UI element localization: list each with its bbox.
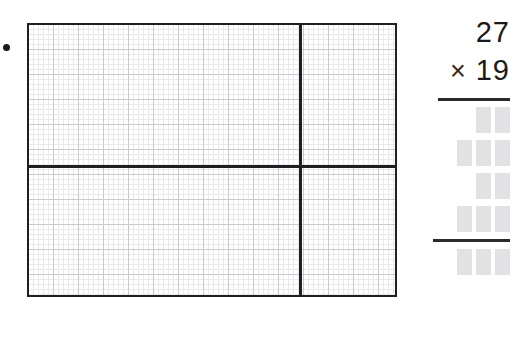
answer-blank-box[interactable] <box>476 173 491 199</box>
partial-product-row-1[interactable] <box>420 107 520 133</box>
multiplicand-value: 27 <box>476 18 510 47</box>
answer-blank-box[interactable] <box>476 249 491 275</box>
grid-horizontal-partition-line <box>29 165 395 168</box>
answer-blank-box[interactable] <box>457 140 472 166</box>
grid-vertical-partition-line <box>299 25 302 295</box>
multiplication-sign-icon: × <box>450 58 466 85</box>
problem-divider-rule-top <box>438 98 510 101</box>
multiplicand-row: 27 <box>420 18 520 56</box>
answer-blank-box[interactable] <box>457 206 472 232</box>
area-model-grid[interactable] <box>27 23 397 297</box>
answer-blank-box[interactable] <box>495 206 510 232</box>
answer-blank-box[interactable] <box>476 107 491 133</box>
partial-product-row-2[interactable] <box>420 140 520 166</box>
answer-blank-box[interactable] <box>495 173 510 199</box>
answer-blank-box[interactable] <box>457 249 472 275</box>
answer-blank-box[interactable] <box>495 107 510 133</box>
bullet-marker <box>3 44 10 51</box>
answer-blank-box[interactable] <box>476 140 491 166</box>
problem-divider-rule-bottom <box>433 239 510 242</box>
answer-blank-box[interactable] <box>495 249 510 275</box>
total-row[interactable] <box>420 249 520 275</box>
answer-blank-box[interactable] <box>476 206 491 232</box>
partial-product-row-3[interactable] <box>420 173 520 199</box>
partial-product-row-4[interactable] <box>420 206 520 232</box>
multiplier-row: × 19 <box>420 56 520 94</box>
answer-blank-box[interactable] <box>495 140 510 166</box>
multiplier-value: 19 <box>476 56 510 85</box>
multiplication-problem: 27 × 19 <box>420 18 520 282</box>
